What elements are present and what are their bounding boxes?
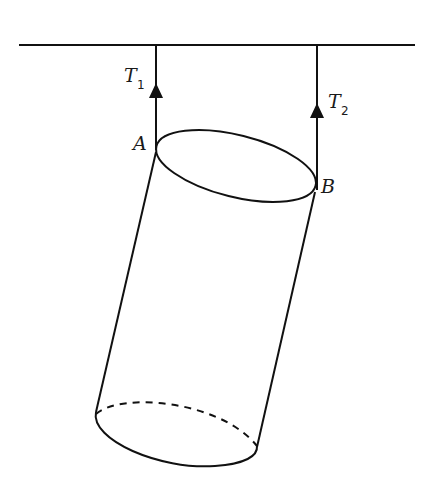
label-point-b: B — [320, 175, 335, 197]
label-point-a: A — [131, 132, 147, 154]
diagram-canvas: T 1 T 2 A B — [0, 0, 421, 498]
label-t2: T 2 — [328, 90, 349, 118]
cylinder-side-left — [96, 152, 156, 412]
cylinder-top-ellipse — [149, 116, 323, 216]
svg-text:1: 1 — [137, 78, 145, 92]
cylinder-bottom-visible-edge — [96, 412, 257, 466]
tension-arrow-left-icon — [149, 83, 163, 98]
tension-arrow-right-icon — [310, 103, 324, 118]
svg-text:T: T — [124, 64, 138, 86]
svg-text:2: 2 — [341, 104, 349, 118]
cylinder-bottom-hidden-edge — [96, 402, 257, 446]
cylinder-bottom-ellipse — [96, 402, 257, 466]
cylinder-side-right — [257, 192, 315, 447]
label-t1: T 1 — [124, 64, 145, 92]
svg-text:T: T — [328, 90, 342, 112]
